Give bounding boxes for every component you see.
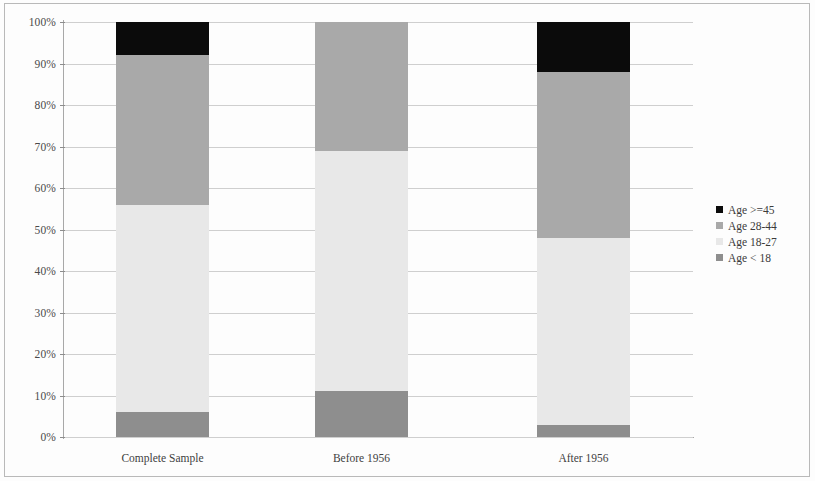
x-axis-tick-label: After 1956 (558, 452, 608, 464)
gridline (64, 437, 693, 438)
legend-item[interactable]: Age < 18 (716, 250, 808, 265)
bar-segment[interactable] (537, 238, 630, 425)
legend-item[interactable]: Age >=45 (716, 202, 808, 217)
legend-label: Age 18-27 (728, 236, 777, 248)
legend-swatch-icon (716, 238, 723, 245)
chart-figure: 100%90%80%70%60%50%40%30%20%10%0% Comple… (0, 0, 815, 481)
bar-segment[interactable] (537, 425, 630, 437)
bar-stack[interactable] (116, 22, 209, 437)
y-axis-tick (60, 22, 65, 23)
y-axis-tick-label: 100% (29, 16, 56, 28)
chart-legend: Age >=45Age 28-44Age 18-27Age < 18 (716, 202, 808, 266)
y-axis-tick-label: 50% (35, 224, 56, 236)
y-axis-tick (60, 354, 65, 355)
bar-segment[interactable] (116, 205, 209, 413)
y-axis-tick-label: 30% (35, 307, 56, 319)
y-axis-tick (60, 396, 65, 397)
y-axis-tick (60, 105, 65, 106)
bar-segment[interactable] (315, 22, 408, 151)
y-axis-tick (60, 271, 65, 272)
y-axis-tick-label: 60% (35, 182, 56, 194)
bar-segment[interactable] (537, 72, 630, 238)
x-axis-tick-label: Before 1956 (333, 452, 390, 464)
y-axis-tick-label: 10% (35, 390, 56, 402)
legend-item[interactable]: Age 18-27 (716, 234, 808, 249)
y-axis-tick (60, 313, 65, 314)
legend-swatch-icon (716, 222, 723, 229)
x-axis-tick-label: Complete Sample (121, 452, 203, 464)
y-axis-tick-label: 40% (35, 265, 56, 277)
bar-segment[interactable] (315, 391, 408, 437)
y-axis-tick (60, 437, 65, 438)
plot-area (64, 22, 693, 437)
bar-stack[interactable] (537, 22, 630, 437)
y-axis-tick-label: 70% (35, 141, 56, 153)
bar-segment[interactable] (537, 22, 630, 72)
legend-item[interactable]: Age 28-44 (716, 218, 808, 233)
legend-label: Age >=45 (728, 204, 775, 216)
y-axis-tick-label: 80% (35, 99, 56, 111)
legend-label: Age < 18 (728, 252, 771, 264)
bar-segment[interactable] (315, 151, 408, 392)
bar-stack[interactable] (315, 22, 408, 437)
legend-swatch-icon (716, 254, 723, 261)
y-axis-tick (60, 230, 65, 231)
legend-swatch-icon (716, 206, 723, 213)
bar-segment[interactable] (116, 22, 209, 55)
y-axis-tick-label: 20% (35, 348, 56, 360)
y-axis-tick-label: 90% (35, 58, 56, 70)
y-axis-tick-labels: 100%90%80%70%60%50%40%30%20%10%0% (0, 22, 56, 437)
y-axis-tick (60, 188, 65, 189)
y-axis-tick (60, 147, 65, 148)
bar-segment[interactable] (116, 412, 209, 437)
bar-segment[interactable] (116, 55, 209, 204)
y-axis-tick-label: 0% (40, 431, 56, 443)
legend-label: Age 28-44 (728, 220, 777, 232)
y-axis-tick (60, 64, 65, 65)
